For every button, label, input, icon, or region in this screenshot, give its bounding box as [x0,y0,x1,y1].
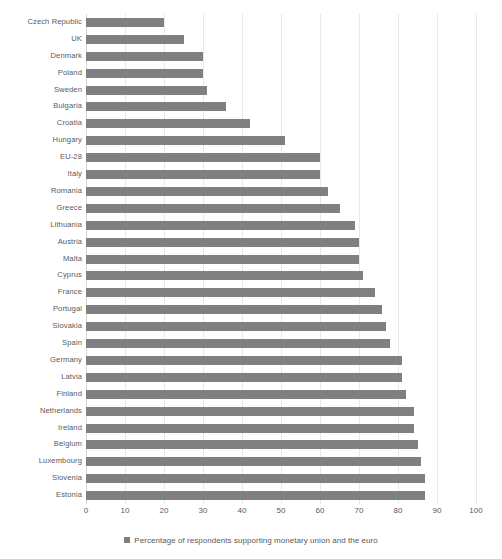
category-label: Finland [0,386,82,403]
legend-swatch-icon [124,537,130,543]
bar-row[interactable] [86,132,476,149]
x-tick-label: 90 [433,506,442,515]
x-tick-label: 80 [394,506,403,515]
bar-czech-republic[interactable] [86,18,164,27]
bar-uk[interactable] [86,35,184,44]
bar-rows [86,14,476,504]
category-label: Poland [0,65,82,82]
bar-austria[interactable] [86,238,359,247]
bar-hungary[interactable] [86,136,285,145]
category-label: Portugal [0,301,82,318]
bar-eu-28[interactable] [86,153,320,162]
bar-row[interactable] [86,403,476,420]
bar-romania[interactable] [86,187,328,196]
category-label: Austria [0,234,82,251]
bar-germany[interactable] [86,356,402,365]
bar-row[interactable] [86,386,476,403]
category-label: Slovenia [0,470,82,487]
category-label: Italy [0,166,82,183]
bar-croatia[interactable] [86,119,250,128]
x-tick-label: 0 [84,506,88,515]
bar-slovenia[interactable] [86,474,425,483]
bar-denmark[interactable] [86,52,203,61]
bar-row[interactable] [86,98,476,115]
bar-portugal[interactable] [86,305,382,314]
bar-row[interactable] [86,31,476,48]
bar-row[interactable] [86,318,476,335]
bar-row[interactable] [86,436,476,453]
bar-row[interactable] [86,369,476,386]
category-label: Malta [0,251,82,268]
bar-row[interactable] [86,48,476,65]
bar-cyprus[interactable] [86,271,363,280]
category-label: Estonia [0,487,82,504]
bar-luxembourg[interactable] [86,457,421,466]
bar-row[interactable] [86,217,476,234]
bar-italy[interactable] [86,170,320,179]
legend-label: Percentage of respondents supporting mon… [134,536,377,545]
gridline-100 [476,14,477,504]
category-label: Lithuania [0,217,82,234]
bar-row[interactable] [86,420,476,437]
x-tick-label: 60 [316,506,325,515]
category-label: Bulgaria [0,98,82,115]
bar-chart: Czech RepublicUKDenmarkPolandSwedenBulga… [0,0,502,559]
category-label: Luxembourg [0,453,82,470]
category-label: Hungary [0,132,82,149]
bar-latvia[interactable] [86,373,402,382]
bar-row[interactable] [86,284,476,301]
category-label: France [0,284,82,301]
bar-spain[interactable] [86,339,390,348]
x-tick-label: 30 [199,506,208,515]
bar-poland[interactable] [86,69,203,78]
bar-row[interactable] [86,65,476,82]
category-label: Germany [0,352,82,369]
x-tick-label: 70 [355,506,364,515]
category-label: Czech Republic [0,14,82,31]
category-label: Croatia [0,115,82,132]
category-label: Sweden [0,82,82,99]
bar-belgium[interactable] [86,440,418,449]
bar-estonia[interactable] [86,491,425,500]
bar-row[interactable] [86,453,476,470]
bar-row[interactable] [86,251,476,268]
category-label: Spain [0,335,82,352]
bar-greece[interactable] [86,204,340,213]
category-label: Cyprus [0,267,82,284]
category-label: Greece [0,200,82,217]
bar-netherlands[interactable] [86,407,414,416]
bar-row[interactable] [86,301,476,318]
bar-row[interactable] [86,183,476,200]
bar-ireland[interactable] [86,424,414,433]
bar-row[interactable] [86,200,476,217]
category-label: Denmark [0,48,82,65]
bar-sweden[interactable] [86,86,207,95]
bar-row[interactable] [86,487,476,504]
bar-row[interactable] [86,115,476,132]
bar-lithuania[interactable] [86,221,355,230]
x-tick-label: 10 [121,506,130,515]
x-axis: 0102030405060708090100 [86,506,476,524]
bar-finland[interactable] [86,390,406,399]
bar-malta[interactable] [86,255,359,264]
bar-row[interactable] [86,166,476,183]
x-tick-label: 50 [277,506,286,515]
category-label: Netherlands [0,403,82,420]
bar-france[interactable] [86,288,375,297]
bar-row[interactable] [86,267,476,284]
bar-row[interactable] [86,352,476,369]
category-label: UK [0,31,82,48]
bar-row[interactable] [86,335,476,352]
bar-row[interactable] [86,234,476,251]
bar-slovakia[interactable] [86,322,386,331]
bar-bulgaria[interactable] [86,102,226,111]
bar-row[interactable] [86,82,476,99]
category-label: EU-28 [0,149,82,166]
category-label: Slovakia [0,318,82,335]
category-label: Belgium [0,436,82,453]
bar-row[interactable] [86,14,476,31]
bar-row[interactable] [86,470,476,487]
category-label: Romania [0,183,82,200]
bar-row[interactable] [86,149,476,166]
x-tick-label: 100 [469,506,482,515]
